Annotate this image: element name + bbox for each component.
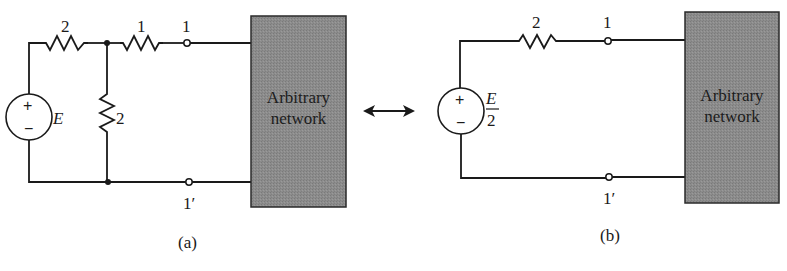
- panel-a-caption: (a): [178, 233, 197, 252]
- resistor-a-series-1-label: 1: [137, 17, 146, 36]
- circuit-diagram: 2 1 2 1 1′ + − E Arbitrary network (a): [0, 0, 787, 271]
- terminal-a-1: [184, 40, 190, 46]
- double-headed-arrow-icon: [363, 105, 415, 117]
- resistor-a-shunt-2: [100, 92, 114, 137]
- wire-a-left-top: [29, 43, 42, 94]
- resistor-a-shunt-2-label: 2: [116, 109, 125, 128]
- terminal-b-1: [605, 38, 611, 44]
- voltage-source-b-plus: +: [455, 91, 464, 108]
- resistor-a-series-1: [120, 36, 163, 50]
- resistor-b-series-2: [516, 35, 560, 48]
- voltage-source-a-plus: +: [23, 97, 32, 114]
- network-box-b-line2: network: [704, 107, 760, 126]
- junction-dot-a-top: [104, 40, 110, 46]
- network-box-b-line1: Arbitrary: [700, 86, 764, 105]
- voltage-source-a-minus: −: [24, 120, 33, 137]
- terminal-a-1-label: 1: [182, 17, 191, 36]
- wire-b-left-top: [460, 41, 516, 88]
- panel-b-caption: (b): [600, 226, 620, 245]
- terminal-a-1prime: [186, 179, 192, 185]
- terminal-b-1-label: 1: [603, 13, 612, 32]
- network-box-a-line2: network: [271, 109, 327, 128]
- voltage-source-a-label: E: [52, 109, 64, 128]
- network-box-a-line1: Arbitrary: [267, 88, 331, 107]
- junction-dot-a-bottom: [105, 179, 111, 185]
- resistor-b-series-2-label: 2: [532, 13, 541, 32]
- voltage-source-b-minus: −: [456, 114, 465, 131]
- terminal-a-1prime-label: 1′: [183, 194, 195, 213]
- wire-b-left-bottom: [461, 134, 606, 178]
- resistor-a-series-2: [42, 36, 88, 50]
- voltage-source-b-label-denominator: 2: [487, 111, 496, 130]
- voltage-source-b-label-numerator: E: [485, 89, 497, 108]
- resistor-a-series-2-label: 2: [61, 17, 70, 36]
- terminal-b-1prime-label: 1′: [603, 189, 615, 208]
- panel-a: 2 1 2 1 1′ + − E Arbitrary network (a): [6, 16, 346, 252]
- terminal-b-1prime: [606, 174, 612, 180]
- panel-b: 2 1 1′ + − E 2 Arbitrary network (b): [438, 12, 779, 245]
